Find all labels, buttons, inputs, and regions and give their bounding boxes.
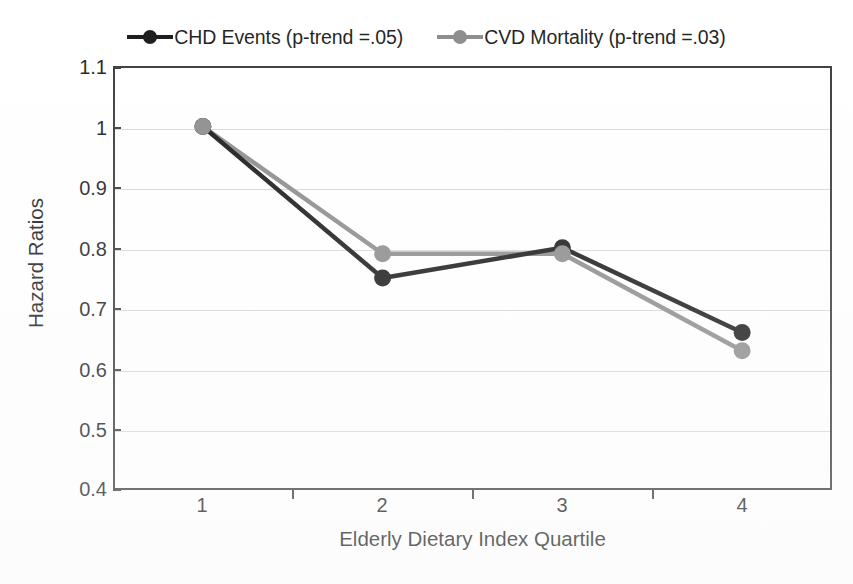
legend-label-cvd: CVD Mortality (p-trend =.03) [484, 26, 726, 49]
data-point [554, 245, 571, 262]
series-markers-chd [194, 118, 750, 341]
data-point [734, 342, 751, 359]
x-axis-title: Elderly Dietary Index Quartile [113, 527, 832, 551]
xtick-label-2: 2 [337, 494, 427, 517]
ytick-label-0.8: 0.8 [47, 237, 107, 260]
y-axis-tick-labels: 1.1 1 0.9 0.8 0.7 0.6 0.5 0.4 [45, 66, 107, 490]
legend-marker-chd-icon [127, 29, 173, 45]
series-layer [113, 66, 832, 490]
legend-label-chd: CHD Events (p-trend =.05) [174, 26, 403, 49]
legend-entry-cvd: CVD Mortality (p-trend =.03) [437, 26, 726, 49]
ytick-label-0.6: 0.6 [47, 358, 107, 381]
legend-entry-chd: CHD Events (p-trend =.05) [127, 26, 403, 49]
ytick-label-0.9: 0.9 [47, 177, 107, 200]
xtick-label-1: 1 [157, 494, 247, 517]
legend-dot-cvd [453, 30, 467, 44]
ytick-label-0.5: 0.5 [47, 419, 107, 442]
ytick-label-0.4: 0.4 [47, 478, 107, 501]
data-point [374, 270, 391, 287]
legend-marker-cvd-icon [437, 29, 483, 45]
series-line-chd [203, 127, 742, 333]
series-line-cvd [203, 127, 742, 351]
hazard-ratio-line-chart: CHD Events (p-trend =.05) CVD Mortality … [0, 0, 853, 584]
x-axis-tick-labels: 1 2 3 4 [113, 494, 832, 524]
data-point [374, 245, 391, 262]
chart-legend: CHD Events (p-trend =.05) CVD Mortality … [0, 22, 853, 52]
series-markers-cvd [194, 118, 750, 359]
ytick-label-1: 1 [47, 116, 107, 139]
legend-dot-chd [143, 30, 157, 44]
data-point [194, 118, 211, 135]
ytick-label-1.1: 1.1 [47, 56, 107, 79]
data-point [734, 324, 751, 341]
xtick-label-4: 4 [697, 494, 787, 517]
xtick-label-3: 3 [517, 494, 607, 517]
y-axis-title: Hazard Ratios [24, 143, 48, 383]
ytick-label-0.7: 0.7 [47, 298, 107, 321]
